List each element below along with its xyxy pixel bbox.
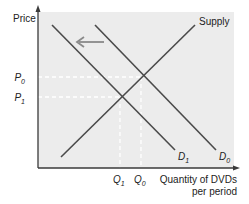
x-axis-arrowhead xyxy=(233,166,240,171)
q1-label: Q1 xyxy=(113,174,125,187)
supply-label: Supply xyxy=(199,16,230,27)
x-axis-label-line2: per period xyxy=(192,186,237,197)
p0-label: P0 xyxy=(14,72,25,85)
plot-area xyxy=(38,12,234,168)
q0-label: Q0 xyxy=(134,174,146,187)
supply-demand-chart: Price Supply P0 P1 Q1 Q0 D1 D0 Quantity … xyxy=(0,0,249,204)
p1-label: P1 xyxy=(14,92,25,105)
y-axis-arrowhead xyxy=(36,5,41,12)
x-axis-label-line1: Quantity of DVDs xyxy=(160,174,237,185)
y-axis-label: Price xyxy=(13,13,36,24)
